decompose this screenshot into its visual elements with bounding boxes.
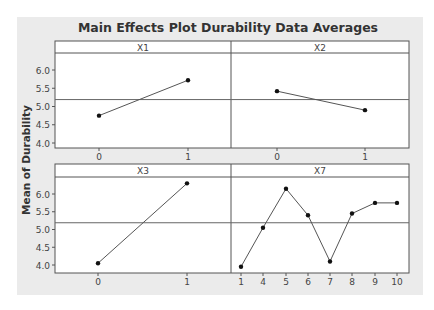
data-point — [97, 113, 101, 117]
x-tick-label: 0 — [95, 277, 101, 287]
x-tick-label: 7 — [327, 277, 333, 287]
x-tick-label: 1 — [185, 152, 191, 162]
x-tick-label: 0 — [274, 152, 280, 162]
x-tick-label: 8 — [349, 277, 355, 287]
data-point — [284, 186, 288, 190]
y-tick-label: 5.0 — [36, 102, 51, 112]
data-point — [350, 211, 354, 215]
panel-x3 — [55, 164, 231, 273]
y-tick-label: 5.5 — [36, 207, 50, 217]
data-point — [275, 89, 279, 93]
panel-x1 — [55, 41, 231, 148]
panel-header-x2: X2 — [314, 43, 326, 53]
data-point — [363, 108, 367, 112]
chart-title: Main Effects Plot Durability Data Averag… — [78, 20, 378, 35]
y-tick-label: 6.0 — [36, 190, 51, 200]
panel-x7 — [231, 164, 409, 273]
data-point — [328, 259, 332, 263]
panel-x2 — [231, 41, 409, 148]
data-point — [373, 201, 377, 205]
main-effects-chart: Main Effects Plot Durability Data Averag… — [0, 0, 434, 310]
data-point — [261, 226, 265, 230]
x-tick-label: 5 — [283, 277, 289, 287]
data-point — [239, 265, 243, 269]
data-point — [96, 261, 100, 265]
y-tick-label: 4.0 — [36, 139, 51, 149]
panel-header-x1: X1 — [137, 43, 149, 53]
y-axis-label: Mean of Durability — [20, 105, 32, 215]
x-tick-label: 1 — [238, 277, 244, 287]
x-tick-label: 10 — [391, 277, 403, 287]
y-tick-label: 5.0 — [36, 225, 51, 235]
x-tick-label: 6 — [305, 277, 311, 287]
data-point — [186, 78, 190, 82]
y-tick-label: 4.5 — [36, 120, 50, 130]
x-tick-label: 1 — [184, 277, 190, 287]
x-tick-label: 1 — [362, 152, 368, 162]
panel-header-x3: X3 — [137, 166, 149, 176]
y-tick-label: 4.0 — [36, 261, 51, 271]
x-tick-label: 4 — [260, 277, 266, 287]
data-point — [395, 201, 399, 205]
data-point — [306, 213, 310, 217]
y-tick-label: 4.5 — [36, 243, 50, 253]
x-tick-label: 0 — [96, 152, 102, 162]
data-point — [185, 181, 189, 185]
panel-header-x7: X7 — [314, 166, 326, 176]
y-tick-label: 6.0 — [36, 66, 51, 76]
panels-group: X1X24.04.55.05.56.00101X3X74.04.55.05.56… — [36, 41, 409, 287]
y-tick-label: 5.5 — [36, 84, 50, 94]
x-tick-label: 9 — [372, 277, 378, 287]
